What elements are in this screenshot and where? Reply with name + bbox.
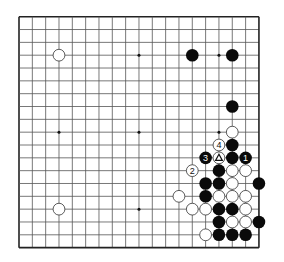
- white-stone[interactable]: [240, 165, 252, 177]
- move-number-label: 2: [190, 166, 195, 176]
- black-stone-icon: [213, 229, 226, 242]
- white-stone[interactable]: [226, 190, 238, 202]
- star-point: [217, 54, 220, 57]
- star-point: [137, 208, 140, 211]
- white-stone-icon: [240, 216, 252, 228]
- white-stone-icon: [226, 165, 238, 177]
- black-stone[interactable]: [253, 216, 266, 229]
- black-stone-icon: [213, 203, 226, 216]
- black-stone[interactable]: [199, 190, 212, 203]
- white-stone[interactable]: [213, 152, 225, 164]
- black-stone-icon: [226, 229, 239, 242]
- black-stone-icon: [226, 139, 239, 152]
- black-stone[interactable]: [213, 164, 226, 177]
- star-point: [57, 131, 60, 134]
- white-stone-icon: [226, 216, 238, 228]
- move-number-label: 1: [243, 153, 248, 163]
- white-stone[interactable]: [213, 190, 225, 202]
- white-stone-icon: [226, 126, 238, 138]
- black-stone[interactable]: [226, 100, 239, 113]
- black-stone-icon: [186, 49, 199, 62]
- white-stone[interactable]: [226, 178, 238, 190]
- white-stone-icon: [240, 190, 252, 202]
- black-stone[interactable]: [239, 229, 252, 242]
- black-stone-icon: [253, 177, 266, 190]
- white-stone[interactable]: 4: [213, 139, 225, 151]
- white-stone[interactable]: [53, 203, 65, 215]
- black-stone[interactable]: 3: [199, 152, 212, 165]
- white-stone[interactable]: [200, 229, 212, 241]
- move-number-label: 4: [216, 140, 221, 150]
- black-stone-icon: [226, 152, 239, 165]
- star-point: [217, 131, 220, 134]
- white-stone-icon: [53, 203, 65, 215]
- black-stone[interactable]: [253, 177, 266, 190]
- white-stone[interactable]: [53, 49, 65, 61]
- black-stone-icon: [213, 216, 226, 229]
- white-stone-icon: [173, 190, 185, 202]
- black-stone[interactable]: [226, 203, 239, 216]
- star-point: [137, 54, 140, 57]
- white-stone[interactable]: [173, 190, 185, 202]
- white-stone[interactable]: [226, 165, 238, 177]
- black-stone[interactable]: [213, 229, 226, 242]
- white-stone[interactable]: [226, 216, 238, 228]
- white-stone-icon: [53, 49, 65, 61]
- white-stone-icon: [200, 203, 212, 215]
- white-stone[interactable]: 2: [186, 165, 198, 177]
- white-stone-icon: [200, 229, 212, 241]
- white-stone[interactable]: [240, 203, 252, 215]
- black-stone[interactable]: [226, 229, 239, 242]
- white-stone[interactable]: [226, 126, 238, 138]
- black-stone[interactable]: [213, 177, 226, 190]
- black-stone-icon: [239, 229, 252, 242]
- white-stone-icon: [226, 178, 238, 190]
- black-stone-icon: [226, 203, 239, 216]
- black-stone[interactable]: [213, 216, 226, 229]
- black-stone-icon: [199, 190, 212, 203]
- white-stone[interactable]: [186, 203, 198, 215]
- white-stone[interactable]: [240, 190, 252, 202]
- white-stone-icon: [240, 165, 252, 177]
- white-stone[interactable]: [240, 216, 252, 228]
- move-number-label: 3: [203, 153, 208, 163]
- black-stone-icon: [213, 164, 226, 177]
- go-board[interactable]: 4312: [0, 0, 284, 262]
- black-stone-icon: [213, 177, 226, 190]
- white-stone-icon: [226, 190, 238, 202]
- black-stone[interactable]: [186, 49, 199, 62]
- black-stone[interactable]: [226, 152, 239, 165]
- black-stone-icon: [253, 216, 266, 229]
- black-stone-icon: [199, 177, 212, 190]
- black-stone-icon: [226, 49, 239, 62]
- black-stone[interactable]: [213, 203, 226, 216]
- black-stone-icon: [226, 100, 239, 113]
- star-point: [137, 131, 140, 134]
- black-stone[interactable]: [199, 177, 212, 190]
- white-stone-icon: [186, 203, 198, 215]
- black-stone[interactable]: [226, 139, 239, 152]
- black-stone[interactable]: [226, 49, 239, 62]
- black-stone[interactable]: 1: [239, 152, 252, 165]
- white-stone-icon: [213, 190, 225, 202]
- white-stone-icon: [240, 203, 252, 215]
- white-stone[interactable]: [200, 203, 212, 215]
